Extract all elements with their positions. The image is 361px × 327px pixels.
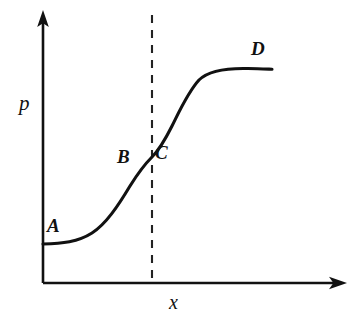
curve-point-label-a: A xyxy=(47,216,60,235)
y-axis-label: p xyxy=(19,93,30,114)
curve-point-label-d: D xyxy=(251,39,265,58)
vertical-axis xyxy=(37,10,49,283)
plot-canvas xyxy=(0,0,361,327)
horizontal-axis xyxy=(43,277,347,290)
x-axis-label: x xyxy=(169,292,178,312)
curve-point-label-b: B xyxy=(117,147,130,166)
figure-container: p x A B C D xyxy=(0,0,361,327)
curve-point-label-c: C xyxy=(155,143,168,162)
